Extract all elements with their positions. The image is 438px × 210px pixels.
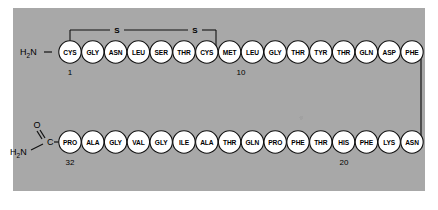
residue-node[interactable]: THR xyxy=(287,41,309,63)
residue-label: THR xyxy=(314,139,328,146)
residue-node[interactable]: TYR xyxy=(310,41,332,63)
residue-node[interactable]: THR xyxy=(173,41,195,63)
residue-node[interactable]: CYS xyxy=(59,41,81,63)
residue-label: LEU xyxy=(246,49,259,56)
residue-node[interactable]: PHE xyxy=(401,41,423,63)
residue-label: PHE xyxy=(291,139,305,146)
residue-label: GLY xyxy=(155,139,168,146)
residue-node[interactable]: ASN xyxy=(104,41,126,63)
residue-label: ASN xyxy=(109,49,123,56)
residue-label: THR xyxy=(337,49,351,56)
residue-label: THR xyxy=(223,139,237,146)
residue-node[interactable]: ILE xyxy=(173,131,195,153)
residue-node[interactable]: PHE xyxy=(287,131,309,153)
residue-node[interactable]: PRO xyxy=(264,131,286,153)
residue-label: CYS xyxy=(200,49,214,56)
residue-node[interactable]: GLY xyxy=(104,131,126,153)
residue-label: VAL xyxy=(132,139,144,146)
residue-label: GLY xyxy=(86,49,99,56)
residue-node[interactable]: GLY xyxy=(150,131,172,153)
c-term-carbon: C xyxy=(47,137,54,147)
chain-wrap-connector xyxy=(412,52,421,142)
residue-label: ALA xyxy=(200,139,214,146)
residue-label: PHE xyxy=(405,49,419,56)
residue-node[interactable]: CYS xyxy=(196,41,218,63)
residue-label: SER xyxy=(155,49,169,56)
svg-text:H2N: H2N xyxy=(20,47,37,58)
residue-label: GLY xyxy=(269,49,282,56)
residue-label: ILE xyxy=(179,139,190,146)
residue-node[interactable]: THR xyxy=(310,131,332,153)
residue-node[interactable]: MET xyxy=(218,41,240,63)
n-terminus-label: H2N xyxy=(20,47,52,58)
residue-label: GLY xyxy=(109,139,122,146)
residue-label: ASP xyxy=(383,49,397,56)
number-20: 20 xyxy=(340,158,349,167)
residue-label: CYS xyxy=(63,49,77,56)
residue-label: MET xyxy=(223,49,237,56)
c-term-n: N xyxy=(20,147,27,157)
ss-label-right: S xyxy=(192,26,198,35)
peptide-diagram-svg: H2N O C H2N S S xyxy=(0,0,438,210)
residue-node[interactable]: ASP xyxy=(378,41,400,63)
residue-node[interactable]: GLN xyxy=(355,41,377,63)
number-1: 1 xyxy=(68,68,73,77)
residue-node[interactable]: VAL xyxy=(127,131,149,153)
residue-label: GLN xyxy=(246,139,260,146)
residue-node[interactable]: HIS xyxy=(332,131,354,153)
peptide-structure-figure: H2N O C H2N S S xyxy=(0,0,438,210)
residue-node[interactable]: PHE xyxy=(355,131,377,153)
residue-label: PRO xyxy=(268,139,282,146)
residue-label: ALA xyxy=(86,139,100,146)
residue-node[interactable]: THR xyxy=(332,41,354,63)
residue-node[interactable]: GLY xyxy=(82,41,104,63)
residue-label: TYR xyxy=(314,49,327,56)
residue-node[interactable]: SER xyxy=(150,41,172,63)
residue-node[interactable]: ALA xyxy=(196,131,218,153)
residue-label: ASN xyxy=(405,139,419,146)
residue-label: PRO xyxy=(63,139,77,146)
residue-label: LEU xyxy=(132,49,145,56)
number-32: 32 xyxy=(66,158,75,167)
residue-node[interactable]: THR xyxy=(218,131,240,153)
residue-node[interactable]: PRO xyxy=(59,131,81,153)
n-term-n: N xyxy=(30,47,37,57)
c-term-n-bond xyxy=(31,144,43,150)
residue-label: GLN xyxy=(360,49,374,56)
residue-node[interactable]: LEU xyxy=(241,41,263,63)
residue-label: THR xyxy=(291,49,305,56)
residue-node[interactable]: ASN xyxy=(401,131,423,153)
svg-text:H2N: H2N xyxy=(10,147,27,158)
residue-node[interactable]: LEU xyxy=(127,41,149,63)
residue-label: PHE xyxy=(360,139,374,146)
residue-node[interactable]: GLN xyxy=(241,131,263,153)
bottom-residue-row: PROALAGLYVALGLYILEALATHRGLNPROPHETHRHISP… xyxy=(59,131,423,153)
residue-node[interactable]: GLY xyxy=(264,41,286,63)
c-terminus-group: O C H2N xyxy=(10,120,61,158)
residue-node[interactable]: ALA xyxy=(82,131,104,153)
residue-node[interactable]: LYS xyxy=(378,131,400,153)
top-residue-row: CYSGLYASNLEUSERTHRCYSMETLEUGLYTHRTYRTHRG… xyxy=(59,41,423,63)
c-term-oxygen: O xyxy=(33,120,40,130)
number-10: 10 xyxy=(237,68,246,77)
ss-label-left: S xyxy=(114,26,120,35)
residue-label: LYS xyxy=(383,139,396,146)
residue-label: HIS xyxy=(338,139,349,146)
residue-label: THR xyxy=(177,49,191,56)
